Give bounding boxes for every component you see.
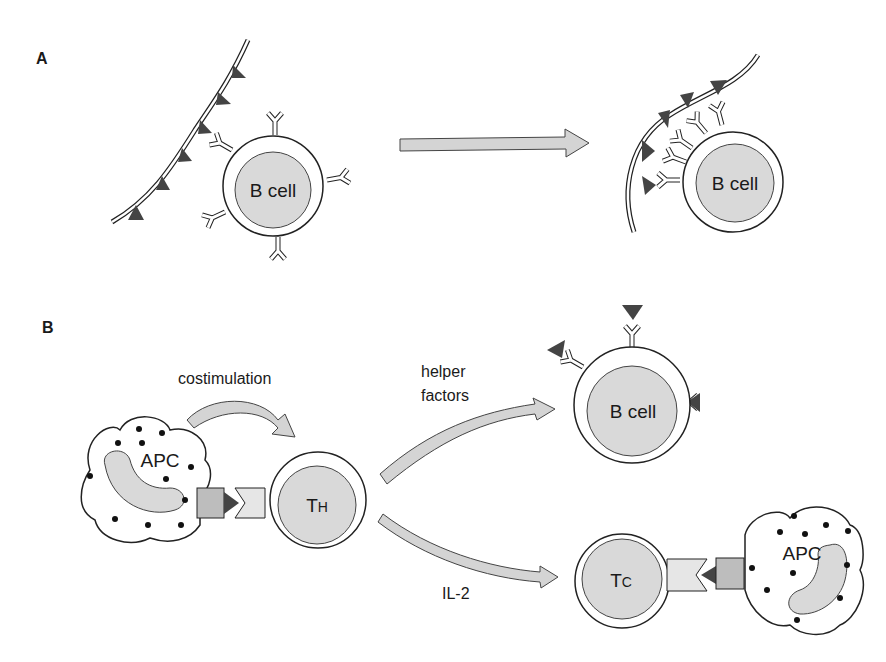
il2-label: IL-2 [442, 585, 470, 602]
tc-cell: TC [575, 534, 669, 628]
b-cell-label: B cell [712, 173, 758, 194]
helper-factors-label-line1: helper [421, 363, 466, 380]
b-cell-label: B cell [610, 401, 656, 422]
mhc-receptor [716, 558, 744, 589]
panel-b-label: B [42, 319, 54, 336]
tc-label: TC [610, 570, 632, 591]
b-cell-left: B cell [202, 113, 350, 259]
immune-response-diagram: A B cell [0, 0, 886, 662]
b-cell-activated: B cell [547, 305, 700, 463]
apc-label: APC [782, 543, 821, 564]
helper-factors-label-line2: factors [421, 387, 469, 404]
il2-arrow [378, 514, 558, 588]
transition-arrow [400, 129, 589, 157]
th-cell: TH [270, 452, 366, 548]
antigen-peptide [224, 492, 239, 514]
apc-left: APC [81, 417, 210, 542]
b-cell-right: B cell [658, 102, 783, 232]
costimulation-arrow [187, 401, 295, 437]
th-label: TH [306, 495, 328, 516]
apc-right: APC [745, 507, 863, 635]
tcr-receptor [235, 488, 265, 518]
mhc-receptor [197, 488, 224, 518]
b-cell-label: B cell [250, 180, 296, 201]
panel-a-label: A [36, 50, 48, 67]
helper-factors-arrow [380, 398, 555, 484]
apc-label: APC [140, 450, 179, 471]
costimulation-label: costimulation [178, 370, 271, 387]
antigen-peptide [701, 566, 716, 584]
